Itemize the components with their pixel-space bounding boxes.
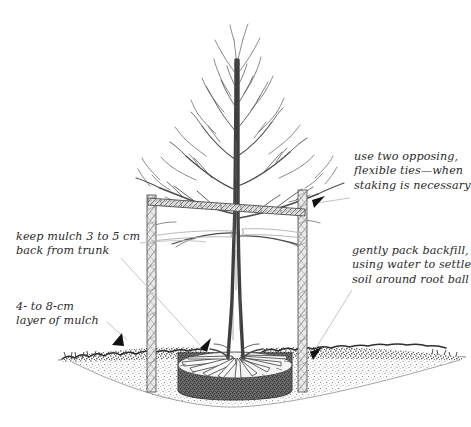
annotation-ties: use two opposing, flexible ties—when sta… [354, 150, 471, 193]
annotation-line: use two opposing, [354, 150, 471, 164]
leader-backfill [316, 290, 352, 348]
annotation-mulch-gap: keep mulch 3 to 5 cm back from trunk [16, 230, 140, 259]
arrowheads [112, 196, 325, 360]
annotation-line: keep mulch 3 to 5 cm [16, 230, 140, 244]
annotation-line: gently pack backfill, [352, 244, 471, 258]
leader-mulch-gap [121, 258, 200, 345]
wooden-stake-right[interactable] [298, 190, 307, 392]
horizontal-crossbar [148, 198, 305, 216]
annotation-line: layer of mulch [16, 314, 99, 328]
bare-deciduous-tree [136, 24, 344, 358]
annotation-line: using water to settle [352, 258, 471, 272]
annotation-line: soil around root ball [352, 273, 471, 287]
annotation-backfill: gently pack backfill, using water to set… [352, 244, 471, 287]
annotation-line: back from trunk [16, 244, 140, 258]
annotation-mulch-depth: 4- to 8-cm layer of mulch [16, 300, 99, 329]
arrowhead-mulch-depth [112, 333, 124, 346]
annotation-line: flexible ties—when [354, 164, 471, 178]
annotation-line: 4- to 8-cm [16, 300, 99, 314]
leader-mulch-depth [107, 322, 127, 340]
annotation-line: staking is necessary [354, 179, 471, 193]
wooden-stake-left[interactable] [147, 195, 156, 392]
